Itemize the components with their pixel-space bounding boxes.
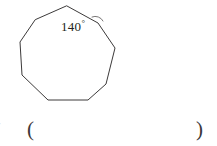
answer-open-paren: (	[27, 113, 34, 146]
left-edge-artifact: ·	[0, 120, 5, 127]
answer-close-paren: )	[196, 113, 203, 146]
angle-measure-value: 140	[61, 19, 81, 34]
angle-measure-label: 140°	[61, 19, 85, 33]
degree-symbol-icon: °	[82, 18, 86, 28]
answer-blank[interactable]: ( )	[0, 113, 217, 146]
